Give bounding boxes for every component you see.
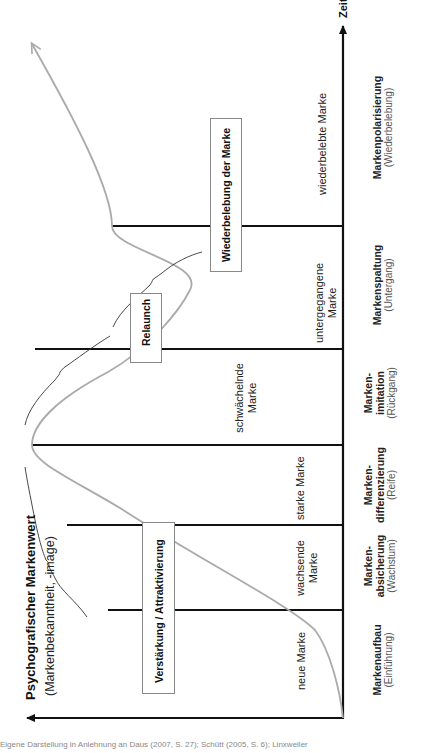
- phase-label-markendifferenzierung: Marken- differenzierung (Reife): [362, 444, 398, 526]
- phase-label-markenaufbau: Markenaufbau (Einführung): [371, 614, 395, 706]
- phase-label-markenabsicherung: Marken- absicherung (Wachstum): [362, 523, 398, 609]
- brand-state-neue-marke: neue Marke: [295, 632, 308, 690]
- brand-state-schwaechelnde-marke: schwächelnde Marke: [233, 358, 259, 438]
- brand-state-untergegangene-marke: untergegangene Marke: [313, 263, 339, 343]
- value-axis-label: Psychografischer Markenwert: [23, 515, 38, 700]
- phase-label-markenimitation: Marken- imitation (Rückgang): [362, 349, 398, 437]
- time-axis-label: Zeit: [337, 0, 349, 18]
- diagram-graphics: [0, 0, 423, 753]
- brand-lifecycle-diagram: Zeit Psychografischer Markenwert (Marken…: [0, 0, 423, 753]
- strategy-box-wiederbelebung: Wiederbelebung der Marke: [210, 118, 242, 272]
- source-caption: Eigene Darstellung in Anlehnung an Daus …: [0, 740, 308, 749]
- phase-label-markenpolarisierung: Markenpolarisierung (Wiederbelebung): [371, 65, 395, 190]
- lifecycle-curve: [32, 44, 343, 718]
- brand-state-wiederbelebte-marke: wiederbelebte Marke: [316, 93, 329, 195]
- strategy-box-verstaerkung: Verstärkung / Attraktivierung: [142, 522, 175, 694]
- brand-state-wachsende-marke: wachsende Marke: [294, 533, 320, 603]
- value-axis-sublabel: (Markenbekanntheit, -image): [43, 536, 57, 696]
- brand-state-starke-marke: starke Marke: [294, 456, 307, 520]
- strategy-box-relaunch: Relaunch: [130, 293, 162, 363]
- phase-label-markenspaltung: Markenspaltung (Untergang): [371, 235, 395, 335]
